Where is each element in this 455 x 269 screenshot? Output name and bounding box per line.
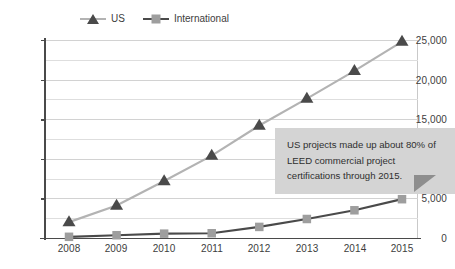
marker-us-2011: [205, 149, 218, 160]
marker-international-2009: [112, 231, 121, 240]
marker-international-2012: [255, 223, 263, 232]
marker-international-2010: [160, 229, 169, 238]
marker-international-2014: [350, 206, 359, 215]
marker-international-2015: [398, 195, 407, 204]
marker-international-2008: [65, 233, 74, 242]
annotation-callout-tail: [414, 175, 436, 192]
marker-international-2013: [303, 215, 312, 224]
marker-us-2014: [348, 64, 361, 75]
marker-us-2013: [300, 92, 313, 103]
marker-international-2011: [207, 229, 216, 238]
marker-us-2015: [396, 35, 409, 46]
